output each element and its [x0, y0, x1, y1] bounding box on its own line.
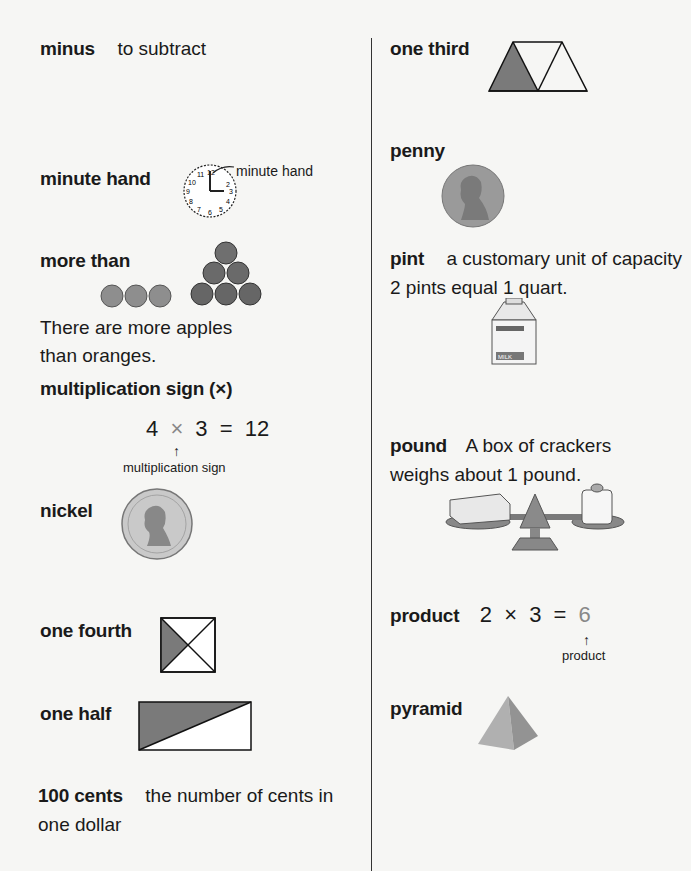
- multiplication-equation: 4 × 3 = 12: [146, 416, 269, 442]
- definition-100-cents-line2: one dollar: [38, 811, 333, 839]
- product-equation: 2 × 3 = 6: [480, 602, 591, 627]
- one-half-rectangle: [138, 701, 252, 751]
- one-half-shape-icon: [138, 701, 252, 751]
- one-fourth-square: [160, 617, 216, 673]
- minute-hand-label: minute hand: [236, 163, 313, 179]
- eq-operand-a: 2: [480, 602, 492, 627]
- term-product: product: [390, 605, 459, 626]
- svg-text:8: 8: [189, 198, 193, 205]
- one-third-triangles: [488, 40, 588, 92]
- pyramid-image: [476, 694, 540, 752]
- term-one-third: one third: [390, 38, 469, 60]
- one-fourth-shape-icon: [160, 617, 216, 673]
- svg-text:4: 4: [226, 198, 230, 205]
- product-label: product: [562, 648, 605, 663]
- svg-text:5: 5: [219, 206, 223, 213]
- penny-image: [441, 164, 505, 228]
- eq-operator: ×: [504, 602, 517, 627]
- eq-result: 6: [578, 602, 590, 627]
- penny-coin-icon: [441, 164, 505, 228]
- term-100-cents: 100 cents: [38, 785, 123, 806]
- svg-text:7: 7: [197, 206, 201, 213]
- definition-100-cents: the number of cents in: [145, 785, 333, 806]
- svg-text:MILK: MILK: [498, 354, 512, 360]
- apples-icon: [190, 240, 262, 308]
- one-third-shape-icon: [488, 40, 588, 92]
- term-pyramid: pyramid: [390, 698, 463, 720]
- milk-carton-icon: MILK: [488, 298, 540, 366]
- term-more-than: more than: [40, 250, 130, 272]
- nickel-coin-icon: [121, 488, 193, 560]
- arrow-up-icon: ↑: [173, 443, 180, 459]
- eq-operand-b: 3: [529, 602, 541, 627]
- svg-text:6: 6: [208, 209, 212, 216]
- oranges-icon: [100, 283, 172, 309]
- entry-100-cents: 100 cents the number of cents in one dol…: [38, 782, 333, 839]
- term-penny: penny: [390, 140, 445, 162]
- pyramid-icon: [476, 694, 540, 752]
- term-one-half: one half: [40, 703, 111, 725]
- more-than-sentence: There are more apples than oranges.: [40, 314, 232, 370]
- svg-text:10: 10: [188, 179, 196, 186]
- svg-text:2: 2: [226, 181, 230, 188]
- milk-carton-image: MILK: [488, 298, 540, 366]
- term-minute-hand: minute hand: [40, 168, 151, 190]
- oranges-image: [100, 283, 172, 309]
- balance-scale-image: [440, 480, 628, 552]
- term-one-fourth: one fourth: [40, 620, 132, 642]
- eq-operator: ×: [170, 416, 183, 441]
- balance-scale-icon: [440, 480, 628, 552]
- sentence-line-1: There are more apples: [40, 314, 232, 342]
- apples-image: [190, 240, 262, 308]
- svg-text:9: 9: [186, 188, 190, 195]
- eq-equals: =: [220, 416, 233, 441]
- arrow-up-icon: ↑: [583, 632, 590, 648]
- eq-equals: =: [554, 602, 567, 627]
- nickel-image: [121, 488, 193, 560]
- eq-operand-a: 4: [146, 416, 158, 441]
- term-multiplication-sign: multiplication sign (×): [40, 378, 232, 400]
- entry-product: product 2 × 3 = 6: [390, 602, 591, 628]
- term-nickel: nickel: [40, 500, 93, 522]
- definition-pound: A box of crackers: [465, 435, 611, 456]
- svg-text:11: 11: [197, 171, 204, 178]
- entry-pint: pint a customary unit of capacity 2 pint…: [390, 245, 682, 302]
- eq-operand-b: 3: [195, 416, 207, 441]
- sentence-line-2: than oranges.: [40, 342, 232, 370]
- eq-result: 12: [245, 416, 269, 441]
- definition-pint: a customary unit of capacity: [446, 248, 682, 269]
- clock-icon: 12 2 3 4 5 6 7 8 9 10 11: [182, 163, 238, 219]
- multiplication-sign-label: multiplication sign: [123, 460, 226, 475]
- term-pound: pound: [390, 435, 447, 456]
- definition-minus: to subtract: [117, 38, 206, 59]
- term-minus: minus: [40, 38, 95, 59]
- clock-image: 12 2 3 4 5 6 7 8 9 10 11: [182, 163, 238, 219]
- term-pint: pint: [390, 248, 424, 269]
- column-divider: [371, 38, 372, 871]
- entry-minus: minus to subtract: [40, 38, 206, 60]
- svg-text:3: 3: [229, 188, 233, 195]
